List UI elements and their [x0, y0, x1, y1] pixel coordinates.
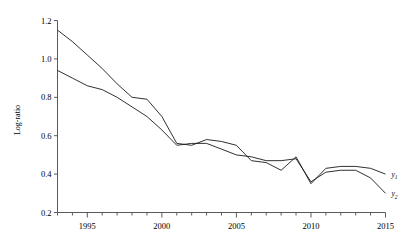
x-tick-label: 2010	[302, 221, 319, 231]
axes	[58, 21, 386, 213]
series-labels: y1y2	[391, 170, 398, 199]
x-axis-ticks: 19952000200520102015	[58, 213, 395, 231]
y-tick-label: 0.6	[41, 131, 52, 141]
y-tick-label: 1.2	[41, 16, 52, 26]
series-label-y2: y2	[391, 189, 398, 199]
y-axis-title: Log-ratio	[13, 105, 22, 135]
line-chart: 0.20.40.60.81.01.219952000200520102015Lo…	[0, 0, 415, 252]
series-line-y1	[58, 30, 386, 184]
y-tick-label: 0.2	[41, 208, 52, 218]
y-axis-ticks: 0.20.40.60.81.01.2	[41, 16, 58, 218]
y-tick-label: 0.8	[41, 92, 52, 102]
y-tick-label: 1.0	[41, 54, 52, 64]
x-tick-label: 2015	[377, 221, 394, 231]
x-tick-label: 1995	[79, 221, 96, 231]
chart-figure: 0.20.40.60.81.01.219952000200520102015Lo…	[0, 0, 415, 252]
y-tick-label: 0.4	[41, 169, 52, 179]
x-tick-label: 2000	[153, 221, 170, 231]
series-group	[58, 30, 386, 193]
series-line-y2	[58, 70, 386, 193]
x-tick-label: 2005	[228, 221, 245, 231]
series-label-y1: y1	[391, 170, 398, 180]
